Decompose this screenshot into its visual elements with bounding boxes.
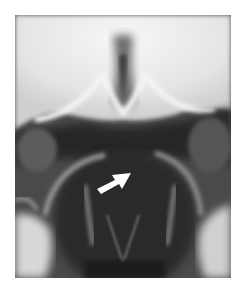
radiograph-render (15, 15, 231, 278)
radiograph-image (15, 15, 231, 278)
annotation-arrow-icon (95, 163, 139, 197)
